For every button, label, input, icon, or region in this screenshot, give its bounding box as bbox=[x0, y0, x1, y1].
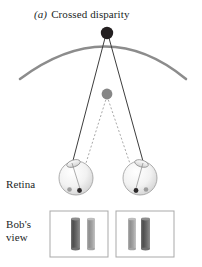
left-retinal-image-fixation bbox=[77, 188, 82, 193]
fixation-dot bbox=[101, 27, 113, 39]
horopter-arc bbox=[20, 47, 186, 80]
near-dot bbox=[102, 89, 113, 100]
bobs-view-label-line2: view bbox=[6, 231, 31, 244]
left-view-far-bar-bottom bbox=[87, 248, 95, 251]
right-retinal-image-fixation bbox=[134, 188, 139, 193]
right-view-far-bar-top bbox=[128, 218, 136, 221]
left-eye bbox=[59, 158, 93, 195]
fixation-ray-left bbox=[70, 38, 105, 172]
bobs-view-panels bbox=[50, 211, 174, 257]
left-retinal-image-near bbox=[67, 187, 72, 192]
right-eye bbox=[123, 158, 157, 195]
left-eye-view-box bbox=[50, 211, 108, 257]
left-view-far-bar-top bbox=[87, 218, 95, 221]
right-eye-view-box bbox=[116, 211, 174, 257]
right-retinal-image-near bbox=[144, 187, 149, 192]
left-view-near-bar bbox=[71, 219, 80, 249]
fixation-ray-right bbox=[109, 38, 146, 172]
right-view-far-bar-bottom bbox=[128, 248, 136, 251]
left-view-near-bar-top bbox=[71, 218, 80, 221]
bobs-view-label-line1: Bob's bbox=[6, 218, 31, 230]
bobs-view-label: Bob's view bbox=[6, 218, 31, 244]
near-point-ray-right bbox=[107, 96, 133, 171]
right-view-near-bar bbox=[141, 219, 150, 249]
left-view-near-bar-bottom bbox=[71, 248, 80, 251]
right-view-far-bar bbox=[128, 219, 136, 249]
right-view-near-bar-bottom bbox=[141, 248, 150, 251]
crossed-disparity-figure: (a)Crossed disparity bbox=[0, 0, 202, 267]
retina-label: Retina bbox=[6, 178, 35, 191]
right-view-near-bar-top bbox=[141, 218, 150, 221]
left-view-far-bar bbox=[87, 219, 95, 249]
